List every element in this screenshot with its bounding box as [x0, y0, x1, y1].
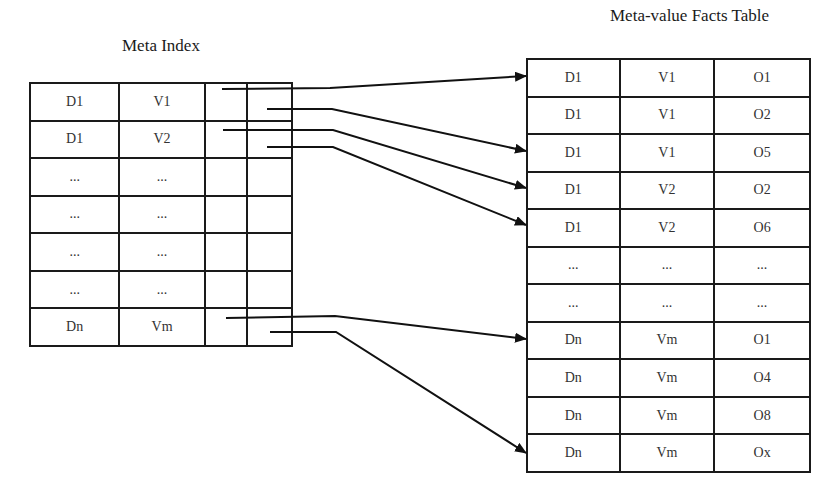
- pointer-arrow: [223, 130, 526, 188]
- pointer-arrow: [226, 316, 526, 339]
- pointer-arrow: [222, 76, 526, 89]
- pointer-arrow: [270, 332, 526, 453]
- pointer-arrows: [0, 0, 840, 503]
- pointer-arrow: [267, 147, 526, 225]
